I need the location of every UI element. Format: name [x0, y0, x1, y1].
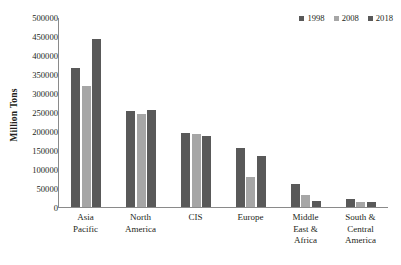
bar-group: [126, 18, 156, 207]
legend-swatch-icon: [368, 16, 373, 21]
y-axis-tick-label: 150000: [20, 147, 58, 156]
y-axis-tick-label: 400000: [20, 52, 58, 61]
x-axis-category-labels: AsiaPacificNorthAmericaCISEuropeMiddleEa…: [58, 212, 388, 264]
legend-label: 2018: [376, 14, 393, 23]
legend-label: 1998: [307, 14, 324, 23]
x-axis-category-label-line: North: [113, 212, 168, 224]
legend-swatch-icon: [334, 16, 339, 21]
bar: [246, 177, 255, 207]
bar-group: [236, 18, 266, 207]
bar: [312, 201, 321, 207]
x-axis-category-label: AsiaPacific: [58, 212, 113, 235]
legend-item[interactable]: 2018: [368, 14, 393, 23]
y-axis-tick-label: 0: [20, 204, 58, 213]
x-axis-category-label: MiddleEast &Africa: [278, 212, 333, 247]
bar-group: [291, 18, 321, 207]
y-axis-tick-label: 100000: [20, 166, 58, 175]
x-axis-category-label-line: America: [333, 235, 388, 247]
bar: [192, 134, 201, 207]
x-axis-category-label: NorthAmerica: [113, 212, 168, 235]
y-axis-title-label: Million Tons: [9, 88, 19, 141]
bar: [147, 110, 156, 207]
x-axis-category-label-line: Africa: [278, 235, 333, 247]
bar: [181, 133, 190, 207]
y-axis-tick-labels: 5000004500004000003500003000002500002000…: [20, 14, 58, 209]
bar: [82, 86, 91, 207]
x-axis-category-label-line: Europe: [223, 212, 278, 224]
legend-item[interactable]: 1998: [299, 14, 324, 23]
bar: [126, 111, 135, 207]
bar: [137, 114, 146, 207]
bar: [301, 195, 310, 207]
x-axis-category-label-line: Middle: [278, 212, 333, 224]
legend-item[interactable]: 2008: [334, 14, 359, 23]
bar-chart: Million Tons 500000450000400000350000300…: [0, 0, 401, 265]
x-axis-category-label-line: Central: [333, 224, 388, 236]
x-axis-category-label: South &CentralAmerica: [333, 212, 388, 247]
bar: [202, 136, 211, 207]
bar: [71, 68, 80, 207]
bar-group: [346, 18, 376, 207]
x-axis-category-label-line: CIS: [168, 212, 223, 224]
y-axis-tick-label: 450000: [20, 33, 58, 42]
x-axis-category-label-line: Pacific: [58, 224, 113, 236]
legend: 199820082018: [299, 14, 393, 23]
y-axis-tick-label: 500000: [20, 14, 58, 23]
x-axis-category-label: Europe: [223, 212, 278, 224]
legend-label: 2008: [342, 14, 359, 23]
y-axis-tick-label: 350000: [20, 71, 58, 80]
bar: [291, 184, 300, 207]
bar: [92, 39, 101, 207]
bar: [346, 199, 355, 207]
x-axis-category-label-line: America: [113, 224, 168, 236]
bar: [356, 202, 365, 207]
bar-series-container: [59, 18, 388, 207]
y-axis-tick-label: 250000: [20, 109, 58, 118]
bar: [257, 156, 266, 207]
bar-group: [71, 18, 101, 207]
y-axis-tick-label: 200000: [20, 128, 58, 137]
bar: [236, 148, 245, 207]
y-axis-tick-label: 300000: [20, 90, 58, 99]
x-axis-category-label-line: Asia: [58, 212, 113, 224]
x-axis-category-label-line: South &: [333, 212, 388, 224]
y-axis-tick-label: 50000: [20, 185, 58, 194]
x-axis-category-label: CIS: [168, 212, 223, 224]
bar-group: [181, 18, 211, 207]
bar: [367, 202, 376, 207]
legend-swatch-icon: [299, 16, 304, 21]
x-axis-category-label-line: East &: [278, 224, 333, 236]
plot-area: [58, 18, 388, 208]
